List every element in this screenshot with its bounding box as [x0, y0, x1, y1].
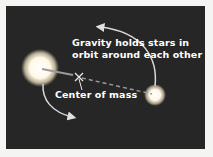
orbit-diagram: [0, 0, 213, 157]
large-star: [21, 49, 59, 87]
small-star: [144, 84, 166, 106]
title-line-1: Gravity holds stars in: [72, 37, 202, 49]
center-of-mass-marker: [75, 73, 83, 90]
title-line-2: orbit around each other: [72, 49, 202, 61]
diagram-title: Gravity holds stars in orbit around each…: [72, 37, 202, 61]
center-of-mass-label: Center of mass: [55, 89, 137, 101]
